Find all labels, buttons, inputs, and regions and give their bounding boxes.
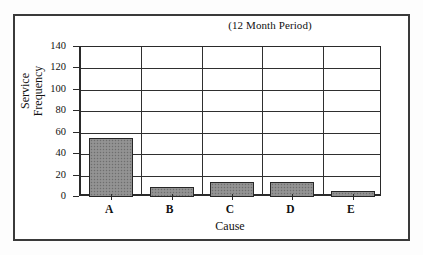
y-axis-tick-label: 80 bbox=[34, 105, 66, 115]
y-axis-tick-label: 40 bbox=[34, 148, 66, 158]
y-axis-tick-label: 0 bbox=[34, 191, 66, 201]
bar-a bbox=[89, 138, 133, 197]
y-axis-tick-mark bbox=[73, 196, 79, 197]
gridline-vertical bbox=[323, 47, 324, 194]
x-axis-tick-label-d: D bbox=[270, 203, 310, 215]
x-axis-tick-mark bbox=[353, 194, 354, 200]
y-axis-tick-label: 60 bbox=[34, 127, 66, 137]
gridline-horizontal bbox=[81, 111, 380, 112]
x-axis-tick-label-b: B bbox=[150, 203, 190, 215]
y-axis-tick-label: 100 bbox=[34, 84, 66, 94]
chart-title: (12 Month Period) bbox=[150, 19, 390, 31]
plot-area bbox=[79, 46, 381, 196]
y-axis-tick-label: 140 bbox=[34, 41, 66, 51]
x-axis-tick-mark bbox=[232, 194, 233, 200]
x-axis-tick-mark bbox=[292, 194, 293, 200]
gridline-vertical bbox=[202, 47, 203, 194]
x-axis-tick-label-e: E bbox=[331, 203, 371, 215]
gridline-vertical bbox=[141, 47, 142, 194]
y-axis-tick-label: 120 bbox=[34, 62, 66, 72]
gridline-horizontal bbox=[81, 68, 380, 69]
gridline-horizontal bbox=[81, 90, 380, 91]
x-axis-tick-label-a: A bbox=[89, 203, 129, 215]
x-axis-title: Cause bbox=[79, 219, 381, 234]
x-axis-tick-mark bbox=[172, 194, 173, 200]
x-axis-tick-label-c: C bbox=[210, 203, 250, 215]
gridline-horizontal bbox=[81, 133, 380, 134]
x-axis-tick-mark bbox=[111, 194, 112, 200]
y-axis-tick-label: 20 bbox=[34, 170, 66, 180]
chart-figure: (12 Month Period) Service Frequency Caus… bbox=[0, 0, 423, 255]
gridline-vertical bbox=[262, 47, 263, 194]
